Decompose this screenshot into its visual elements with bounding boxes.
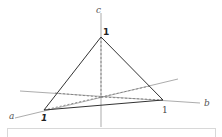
axis-a [15,79,178,118]
axis-label-b: b [204,98,210,108]
axis-label-a: a [9,111,14,121]
vertex-label-apex: 1 [103,27,109,37]
edge-left-right [44,100,163,110]
edge-apex-right [101,37,163,100]
caption-box [7,128,216,137]
vertex-label-left: 1 [41,113,47,123]
axis-label-c: c [96,5,101,15]
axis-b [20,91,200,103]
tetrahedron-diagram: c b a 1 1 1 [0,0,222,137]
vertex-label-right: 1 [162,105,168,115]
